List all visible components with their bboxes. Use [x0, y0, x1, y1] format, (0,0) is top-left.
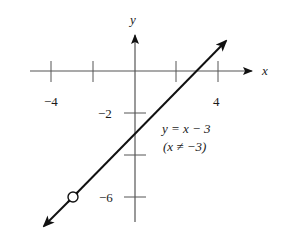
- y-axis-label: y: [128, 12, 136, 27]
- graph-canvas: x y −4 4 −2 −6 y = x − 3 (x ≠ −3): [0, 0, 288, 240]
- equation-label: y = x − 3: [160, 121, 211, 136]
- y-tick-label-neg6: −6: [99, 190, 113, 205]
- x-tick-label-neg4: −4: [44, 94, 58, 109]
- x-tick-label-4: 4: [213, 94, 220, 109]
- y-axis: [124, 35, 146, 222]
- x-axis-label: x: [261, 63, 268, 78]
- excluded-point-marker: [68, 192, 78, 202]
- condition-label: (x ≠ −3): [163, 139, 206, 154]
- y-tick-label-neg2: −2: [98, 106, 112, 121]
- x-axis: [30, 61, 252, 82]
